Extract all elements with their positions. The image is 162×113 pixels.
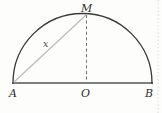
semicircle-arc [13,14,152,84]
label-segment-am: x [43,39,48,49]
label-point-a: A [9,88,17,99]
vertex-dot-a [12,82,14,84]
label-point-b: B [145,88,153,99]
vertex-dot-b [151,82,153,84]
geometry-figure: A O B M x [0,0,162,113]
label-point-o: O [81,88,90,99]
chord-segment-am [13,15,86,83]
label-point-m: M [81,3,92,14]
